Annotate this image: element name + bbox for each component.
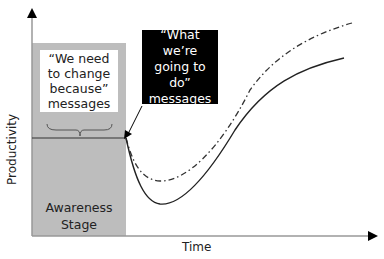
callout-white-line3: because” xyxy=(48,81,111,96)
x-axis-label: Time xyxy=(182,240,211,254)
what-were-going-to-do-callout: “What we’re going to do” messages xyxy=(142,30,218,104)
we-need-to-change-callout: “We need to change because” messages xyxy=(40,50,118,112)
callout-arrow-icon xyxy=(124,130,132,139)
callout-black-line3: messages xyxy=(149,91,212,107)
awareness-stage-label: Awareness Stage xyxy=(32,199,126,233)
callout-black-line2: going to do” xyxy=(142,59,218,91)
y-axis-label: Productivity xyxy=(5,125,19,185)
callout-white-line1: “We need xyxy=(48,51,111,66)
y-axis-arrow-icon xyxy=(27,8,37,18)
stage-label-line2: Stage xyxy=(32,216,126,233)
x-axis-arrow-icon xyxy=(368,231,378,241)
callout-pointer-line xyxy=(128,106,142,134)
stage-label-line1: Awareness xyxy=(32,199,126,216)
callout-white-line4: messages xyxy=(48,96,111,111)
callout-black-line1: “What we’re xyxy=(142,27,218,59)
callout-white-line2: to change xyxy=(48,66,111,81)
